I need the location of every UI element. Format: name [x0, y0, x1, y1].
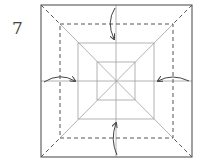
- origami-diagram: [0, 0, 224, 162]
- crease-lines: [41, 5, 192, 157]
- bottom-fold-arrow-icon: [113, 123, 117, 155]
